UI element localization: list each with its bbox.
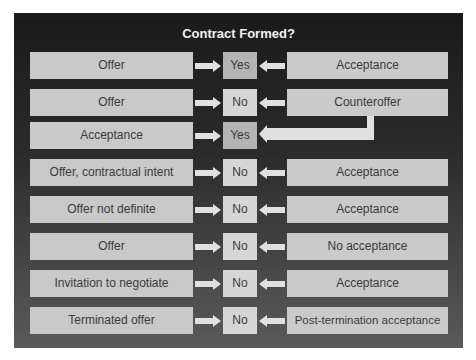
- result-box-3: Yes: [223, 122, 257, 149]
- left-box-5: Offer not definite: [30, 196, 193, 223]
- left-box-4: Offer, contractual intent: [30, 159, 193, 186]
- result-box-2: No: [223, 89, 257, 116]
- right-box-5: Acceptance: [287, 196, 448, 223]
- right-arrow-icon: [195, 97, 221, 109]
- right-arrow-icon: [195, 315, 221, 327]
- result-box-7: No: [223, 270, 257, 297]
- diagram-panel: Contract Formed? Offer Yes Acceptance Of…: [14, 13, 463, 348]
- left-arrow-icon: [259, 278, 285, 290]
- left-box-1: Offer: [30, 52, 193, 79]
- bent-arrow-icon: [259, 116, 375, 148]
- left-arrow-icon: [259, 60, 285, 72]
- result-box-4: No: [223, 159, 257, 186]
- right-arrow-icon: [195, 60, 221, 72]
- right-box-2: Counteroffer: [287, 89, 448, 116]
- result-box-6: No: [223, 233, 257, 260]
- right-arrow-icon: [195, 167, 221, 179]
- left-arrow-icon: [259, 167, 285, 179]
- right-box-6: No acceptance: [287, 233, 448, 260]
- left-box-7: Invitation to negotiate: [30, 270, 193, 297]
- right-box-1: Acceptance: [287, 52, 448, 79]
- right-arrow-icon: [195, 130, 221, 142]
- right-box-4: Acceptance: [287, 159, 448, 186]
- left-arrow-icon: [259, 315, 285, 327]
- right-arrow-icon: [195, 241, 221, 253]
- left-arrow-icon: [259, 204, 285, 216]
- result-box-5: No: [223, 196, 257, 223]
- left-box-2: Offer: [30, 89, 193, 116]
- result-box-1: Yes: [223, 52, 257, 79]
- left-arrow-icon: [259, 97, 285, 109]
- left-arrow-icon: [259, 241, 285, 253]
- diagram-title: Contract Formed?: [14, 26, 463, 41]
- right-box-8: Post-termination acceptance: [287, 307, 448, 334]
- right-arrow-icon: [195, 278, 221, 290]
- left-box-3: Acceptance: [30, 122, 193, 149]
- left-box-6: Offer: [30, 233, 193, 260]
- result-box-8: No: [223, 307, 257, 334]
- right-box-7: Acceptance: [287, 270, 448, 297]
- right-arrow-icon: [195, 204, 221, 216]
- left-box-8: Terminated offer: [30, 307, 193, 334]
